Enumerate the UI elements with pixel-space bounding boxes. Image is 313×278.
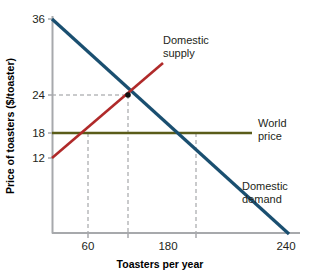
domestic-supply-label-line1: Domestic xyxy=(163,34,209,46)
chart-figure: 36 24 18 12 60 180 240 Toasters per year… xyxy=(0,0,313,278)
y-tick-label-24: 24 xyxy=(32,89,45,101)
domestic-demand-label-line2: demand xyxy=(242,193,282,205)
domestic-demand-label-line1: Domestic xyxy=(242,180,288,192)
y-tick-label-18: 18 xyxy=(32,127,45,139)
y-axis-title: Price of toasters ($/toaster) xyxy=(4,58,16,194)
world-price-label-line1: World xyxy=(258,117,287,129)
domestic-supply-label-line2: supply xyxy=(163,47,195,59)
y-tick-label-36: 36 xyxy=(32,13,45,25)
x-tick-label-240: 240 xyxy=(276,240,295,252)
y-tick-label-12: 12 xyxy=(32,152,45,164)
x-axis-title: Toasters per year xyxy=(117,258,204,270)
x-tick-label-180: 180 xyxy=(158,240,177,252)
world-price-label-line2: price xyxy=(258,130,282,142)
equilibrium-point-marker xyxy=(125,92,131,98)
domestic-demand-label: Domestic demand xyxy=(242,180,288,205)
economics-supply-demand-chart: 36 24 18 12 60 180 240 Toasters per year… xyxy=(0,0,313,278)
x-tick-label-60: 60 xyxy=(82,240,95,252)
